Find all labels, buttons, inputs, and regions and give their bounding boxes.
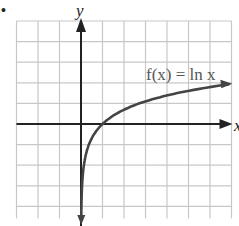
grid-lines bbox=[17, 21, 232, 218]
curve-arrow-down-icon bbox=[77, 215, 85, 225]
curve-arrow-icon bbox=[220, 80, 232, 89]
ln-graph: y x f(x) = ln x bbox=[0, 0, 239, 226]
function-label: f(x) = ln x bbox=[146, 65, 216, 84]
x-axis-label: x bbox=[233, 116, 239, 135]
y-axis-label: y bbox=[74, 1, 84, 20]
